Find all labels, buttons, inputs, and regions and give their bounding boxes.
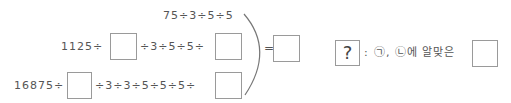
legend-description: ㉠, ㉡에 알맞은 (374, 46, 456, 60)
answer-blank[interactable] (472, 40, 498, 67)
question-mark-box: ? (335, 40, 360, 66)
legend-colon: : (364, 46, 369, 60)
result-blank[interactable] (273, 35, 300, 62)
